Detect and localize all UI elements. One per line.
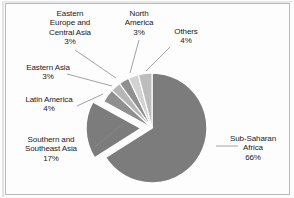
slice-label-southern-southeast-asia: Southern and Southeast Asia 17% [8, 135, 94, 163]
slice-label-others: Others 4% [163, 27, 209, 46]
slice-label-line1: North [129, 9, 148, 18]
slice-value-eastern-europe-central-asia: 3% [31, 37, 109, 46]
slice-label-line3: Central Asia [49, 28, 91, 37]
slice-label-line1: Sub-Saharan [230, 134, 276, 143]
slice-value-others: 4% [163, 36, 209, 45]
slice-label-sub-saharan-africa: Sub-Saharan Africa 66% [219, 134, 287, 162]
slice-value-north-america: 3% [116, 28, 162, 37]
slice-label-eastern-europe-central-asia: Eastern Europe and Central Asia 3% [31, 9, 109, 47]
slice-value-latin-america: 4% [12, 104, 86, 113]
slice-value-eastern-asia: 3% [10, 72, 86, 81]
pie-chart: Eastern Europe and Central Asia 3% North… [0, 0, 294, 198]
slice-label-line1: Eastern [57, 9, 84, 18]
slice-label-north-america: North America 3% [116, 9, 162, 37]
slice-label-line2: Southeast Asia [25, 144, 77, 153]
leader-line-north-america [130, 40, 139, 73]
slice-value-sub-saharan-africa: 66% [219, 153, 287, 162]
slice-label-line2: Europe and [50, 18, 90, 27]
slice-label-latin-america: Latin America 4% [12, 95, 86, 114]
slice-label-eastern-asia: Eastern Asia 3% [10, 63, 86, 82]
slice-label-line1: Southern and [28, 135, 75, 144]
slice-label-line2: Africa [243, 143, 263, 152]
leader-line-others [146, 47, 170, 71]
slice-label-line2: America [125, 18, 154, 27]
slice-label-line1: Latin America [25, 95, 72, 104]
pie-chart-screenshot: Eastern Europe and Central Asia 3% North… [0, 0, 294, 198]
slice-value-southern-southeast-asia: 17% [8, 154, 94, 163]
slice-label-line1: Eastern Asia [26, 63, 70, 72]
slice-label-line1: Others [174, 27, 197, 36]
